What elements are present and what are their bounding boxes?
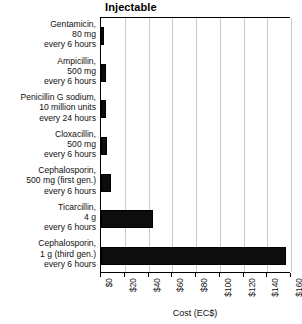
category-label-line: Ticarcillin, xyxy=(0,202,96,212)
category-label-line: 80 mg xyxy=(0,29,96,39)
category-label-line: 1 g (third gen.) xyxy=(0,249,96,259)
category-label-line: every 24 hours xyxy=(0,113,96,123)
x-axis-tick-label: $60 xyxy=(175,278,185,292)
x-axis-tick xyxy=(171,273,172,277)
category-label-line: 4 g xyxy=(0,212,96,222)
bar-row xyxy=(101,18,290,55)
x-axis-tick xyxy=(195,273,196,277)
x-axis-tick-label: $40 xyxy=(152,278,162,292)
bar xyxy=(101,210,153,228)
bar-row xyxy=(101,55,290,92)
x-axis-tick xyxy=(100,273,101,277)
bar xyxy=(101,247,286,265)
bar-row xyxy=(101,237,290,274)
x-axis-tick xyxy=(124,273,125,277)
x-axis-title: Cost (EC$) xyxy=(100,308,290,318)
category-label-line: Cephalosporin, xyxy=(0,238,96,248)
category-label-line: every 6 hours xyxy=(0,222,96,232)
category-label-line: every 6 hours xyxy=(0,186,96,196)
x-axis-tick-label: $160 xyxy=(294,278,302,297)
category-label: Gentamicin,80 mgevery 6 hours xyxy=(0,19,96,50)
x-axis-tick xyxy=(219,273,220,277)
category-label: Cephalosporin,500 mg (first gen.)every 6… xyxy=(0,165,96,196)
bar-row xyxy=(101,128,290,165)
x-axis-tick-label: $20 xyxy=(128,278,138,292)
category-label-line: every 6 hours xyxy=(0,39,96,49)
x-axis-tick-label: $100 xyxy=(223,278,233,297)
x-axis-tick-labels: $0$20$40$60$80$100$120$140$160 xyxy=(100,278,290,308)
category-label-line: 10 million units xyxy=(0,102,96,112)
bar-row xyxy=(101,164,290,201)
x-axis-tick-label: $80 xyxy=(199,278,209,292)
bar-row xyxy=(101,91,290,128)
category-label: Cloxacillin,500 mgevery 6 hours xyxy=(0,129,96,160)
bar-series xyxy=(101,18,290,272)
chart-title: Injectable xyxy=(105,1,157,13)
gridline xyxy=(291,18,292,272)
plot-area xyxy=(100,17,290,273)
category-label-line: Ampicillin, xyxy=(0,56,96,66)
category-label-line: 500 mg xyxy=(0,66,96,76)
bar-row xyxy=(101,201,290,238)
category-axis-labels: Gentamicin,80 mgevery 6 hoursAmpicillin,… xyxy=(0,17,96,273)
category-label: Ampicillin,500 mgevery 6 hours xyxy=(0,56,96,87)
x-axis-tick xyxy=(290,273,291,277)
category-label-line: 500 mg (first gen.) xyxy=(0,175,96,185)
category-label-line: Gentamicin, xyxy=(0,19,96,29)
bar xyxy=(101,64,106,82)
category-label-line: Penicillin G sodium, xyxy=(0,92,96,102)
bar xyxy=(101,100,106,118)
category-label-line: 500 mg xyxy=(0,139,96,149)
category-label-line: Cloxacillin, xyxy=(0,129,96,139)
category-label: Ticarcillin,4 gevery 6 hours xyxy=(0,202,96,233)
x-axis-tick xyxy=(266,273,267,277)
category-label-line: every 6 hours xyxy=(0,149,96,159)
x-axis-tick xyxy=(243,273,244,277)
x-axis-tick xyxy=(148,273,149,277)
bar xyxy=(101,174,111,192)
x-axis-tick-label: $140 xyxy=(270,278,280,297)
category-label: Cephalosporin,1 g (third gen.)every 6 ho… xyxy=(0,238,96,269)
category-label-line: Cephalosporin, xyxy=(0,165,96,175)
bar xyxy=(101,27,104,45)
injectable-cost-bar-chart: Injectable Gentamicin,80 mgevery 6 hours… xyxy=(0,0,302,324)
x-axis-tick-label: $0 xyxy=(104,278,114,287)
bar xyxy=(101,137,107,155)
category-label-line: every 6 hours xyxy=(0,76,96,86)
category-label-line: every 6 hours xyxy=(0,259,96,269)
x-axis-tick-label: $120 xyxy=(247,278,257,297)
category-label: Penicillin G sodium,10 million unitsever… xyxy=(0,92,96,123)
